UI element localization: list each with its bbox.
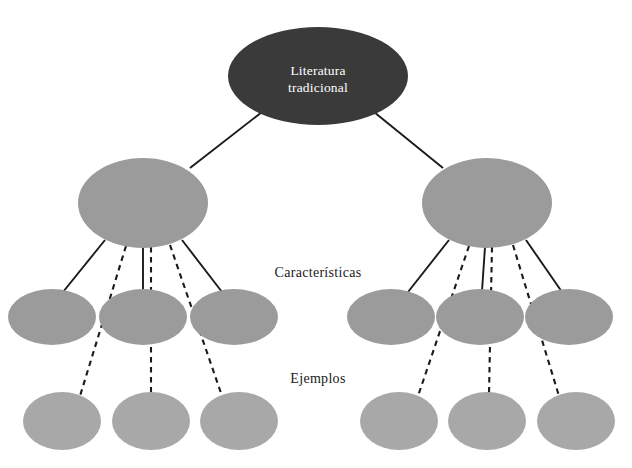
root-to-left-branch xyxy=(190,112,262,168)
right-branch-to-characteristic-3 xyxy=(526,240,562,292)
root-node-layer: Literaturatradicional xyxy=(228,27,408,125)
left-branch-node[interactable] xyxy=(78,158,208,248)
tree-diagram: Literaturatradicional CaracterísticasEje… xyxy=(0,0,632,468)
left-branch-example-node-3[interactable] xyxy=(200,392,278,450)
right-branch-example-node-3[interactable] xyxy=(537,392,615,450)
examples-node-layer xyxy=(23,392,615,450)
branch-node-layer xyxy=(78,158,552,248)
right-branch-example-node-1[interactable] xyxy=(360,392,438,450)
left-branch-characteristic-node-2[interactable] xyxy=(99,289,187,345)
right-branch-to-characteristic-2 xyxy=(482,247,485,291)
left-branch-characteristic-node-1[interactable] xyxy=(8,289,96,345)
left-branch-example-node-1[interactable] xyxy=(23,392,101,450)
right-branch-characteristic-node-3[interactable] xyxy=(525,289,613,345)
row-label-caracteristicas: Características xyxy=(275,265,362,280)
right-branch-characteristic-node-2[interactable] xyxy=(436,289,524,345)
right-branch-to-characteristic-1 xyxy=(408,240,449,292)
left-branch-to-characteristic-3 xyxy=(182,240,222,292)
left-branch-example-node-2[interactable] xyxy=(112,392,190,450)
right-branch-example-node-2[interactable] xyxy=(448,392,526,450)
right-branch-characteristic-node-1[interactable] xyxy=(347,289,435,345)
right-branch-node[interactable] xyxy=(422,158,552,248)
diagram-canvas: Literaturatradicional CaracterísticasEje… xyxy=(0,0,632,468)
row-label-ejemplos: Ejemplos xyxy=(290,371,345,386)
root-node-label-line-2: tradicional xyxy=(288,80,348,95)
left-branch-to-characteristic-1 xyxy=(63,240,105,292)
root-node-label-line-1: Literatura xyxy=(290,63,345,78)
left-branch-characteristic-node-3[interactable] xyxy=(190,289,278,345)
row-label-layer: CaracterísticasEjemplos xyxy=(275,265,362,386)
root-to-right-branch xyxy=(374,112,443,168)
